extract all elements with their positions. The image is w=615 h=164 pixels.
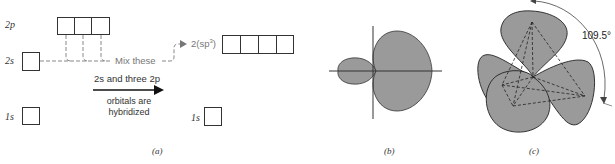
caption-c: (c)	[529, 146, 539, 156]
tetrahedral-sp3-orbitals	[0, 0, 615, 164]
angle-tick	[603, 103, 612, 106]
angle-arrow-tail-icon	[530, 0, 536, 4]
angle-label: 109.5°	[582, 30, 611, 41]
